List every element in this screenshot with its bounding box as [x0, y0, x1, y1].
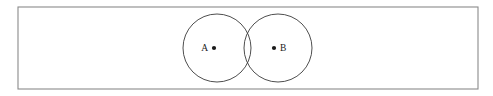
universal-set-rectangle	[18, 7, 478, 89]
set-a-label: A	[201, 43, 208, 53]
set-a-element-dot	[212, 46, 216, 50]
set-b-element-dot	[272, 46, 276, 50]
set-b-label: B	[280, 43, 286, 53]
venn-diagram-canvas: A B	[0, 0, 493, 96]
venn-diagram-figure: A B	[0, 0, 493, 96]
